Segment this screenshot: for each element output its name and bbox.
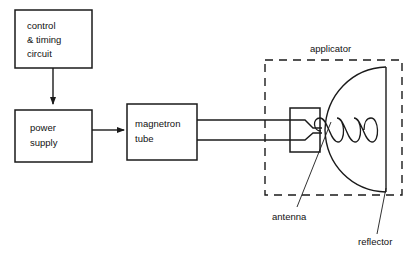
diagram-canvas: control & timing circuit power supply ma… (0, 0, 416, 257)
callout-reflector: reflector (358, 188, 392, 247)
reflector-label: reflector (358, 236, 392, 247)
control-timing-circuit-label-line-2: & timing (27, 34, 61, 45)
block-diagram: control & timing circuit power supply ma… (0, 0, 416, 257)
power-supply-label-line-2: supply (30, 137, 58, 148)
antenna-label: antenna (272, 211, 307, 222)
block-power-supply: power supply (15, 110, 92, 162)
callout-applicator: applicator (310, 43, 351, 54)
antenna-helix (314, 118, 377, 142)
applicator-dashed-rect (265, 60, 402, 195)
antenna-coil (314, 118, 377, 142)
applicator-boundary (265, 60, 402, 195)
block-control-timing-circuit: control & timing circuit (15, 10, 92, 68)
waveguide (197, 120, 292, 140)
magnetron-tube-label-line-2: tube (135, 133, 154, 144)
control-timing-circuit-label-line-3: circuit (27, 48, 52, 59)
applicator-label: applicator (310, 43, 351, 54)
power-supply-label-line-1: power (30, 122, 56, 133)
magnetron-tube-label-line-1: magnetron (135, 118, 180, 129)
transition-box (290, 108, 320, 152)
control-timing-circuit-label-line-1: control (27, 20, 56, 31)
block-magnetron-tube: magnetron tube (127, 104, 197, 160)
